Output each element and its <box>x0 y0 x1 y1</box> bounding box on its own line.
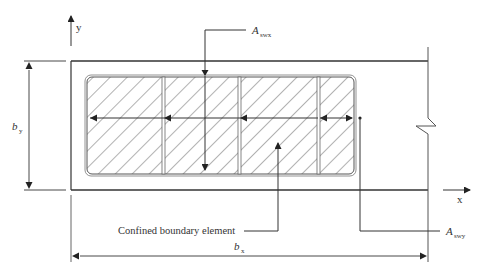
by-dimension: b y <box>12 61 66 190</box>
by-label-main: b <box>12 120 18 132</box>
x-axis-arrow: x <box>443 190 470 205</box>
aswx-label-sub: swx <box>260 31 272 39</box>
boundary-element-diagram: y A swx Confi <box>0 0 489 277</box>
confined-boundary-element <box>85 75 362 176</box>
y-axis-label: y <box>76 21 82 33</box>
x-axis-label: x <box>457 193 463 205</box>
y-axis-arrow: y <box>71 16 82 46</box>
aswx-label-main: A <box>251 24 259 36</box>
bx-label-main: b <box>234 240 240 252</box>
by-label-sub: y <box>19 127 23 135</box>
confined-boundary-label: Confined boundary element <box>118 225 235 236</box>
aswy-label-main: A <box>445 225 453 237</box>
bx-label-sub: x <box>241 247 245 255</box>
aswy-label-sub: swy <box>454 232 466 240</box>
aswy-callout: A swy <box>360 118 466 240</box>
